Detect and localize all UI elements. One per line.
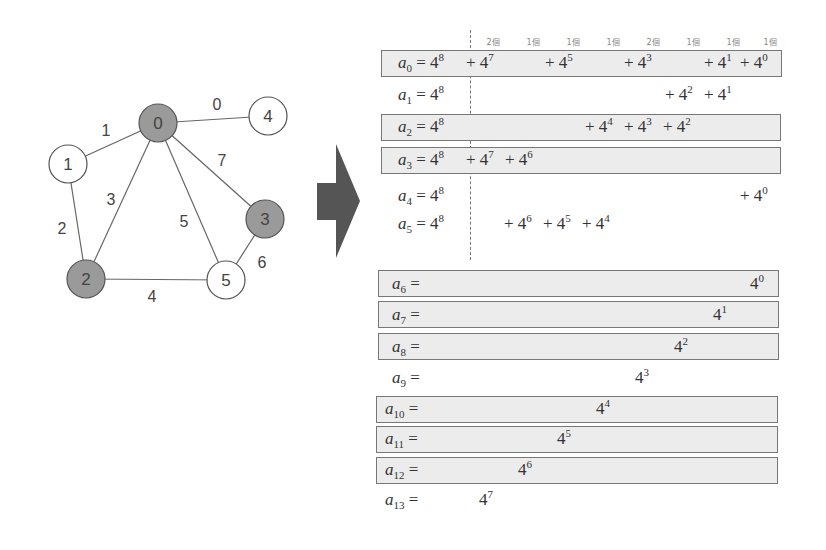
edge-label: 3: [107, 191, 116, 208]
right-arrow-icon: [317, 144, 360, 258]
row-label-a4: a4 = 48: [398, 186, 444, 206]
highlight-box-a11: [376, 426, 778, 453]
node-label: 0: [153, 114, 162, 133]
term: 40: [750, 274, 764, 294]
term: + 47: [466, 53, 494, 73]
term: + 42: [663, 117, 691, 137]
graph-nodes: 012345: [49, 97, 287, 299]
row-label-a12: a12 =: [385, 460, 418, 480]
term: 44: [596, 399, 610, 419]
edge-0-5: [158, 123, 226, 280]
edge-0-3: [158, 123, 265, 219]
highlight-box-a6: [378, 270, 779, 297]
term: + 46: [504, 214, 532, 234]
column-header: 1個: [726, 36, 739, 47]
edge-label: 2: [58, 220, 67, 237]
term: 46: [518, 460, 532, 480]
column-header: 1個: [526, 36, 539, 47]
term: + 41: [704, 53, 732, 73]
edge-0-2: [86, 123, 158, 279]
row-label-a5: a5 = 48: [398, 214, 444, 234]
row-label-a0: a0 = 48: [398, 53, 444, 73]
term: + 42: [665, 85, 693, 105]
edge-label: 1: [102, 122, 111, 139]
term: + 47: [466, 150, 494, 170]
column-header: 1個: [686, 36, 699, 47]
node-label: 3: [260, 210, 269, 229]
column-header: 1個: [606, 36, 619, 47]
edge-label: 5: [180, 213, 189, 230]
term: + 40: [740, 186, 768, 206]
row-label-a1: a1 = 48: [398, 85, 444, 105]
column-header: 1個: [566, 36, 579, 47]
term: 42: [674, 337, 688, 357]
edge-label: 4: [148, 288, 157, 305]
term: 43: [635, 368, 649, 388]
column-header: 2個: [486, 36, 499, 47]
edge-label: 6: [258, 254, 267, 271]
row-label-a6: a6 =: [392, 274, 420, 294]
row-label-a7: a7 =: [392, 305, 420, 325]
term: + 44: [585, 117, 613, 137]
highlight-box-a12: [376, 457, 778, 484]
term: + 43: [624, 117, 652, 137]
node-label: 2: [81, 270, 90, 289]
row-label-a3: a3 = 48: [398, 150, 444, 170]
highlight-box-a10: [376, 396, 778, 423]
row-label-a10: a10 =: [385, 399, 418, 419]
column-header: 1個: [763, 36, 776, 47]
edge-label: 0: [213, 96, 222, 113]
term: + 40: [740, 53, 768, 73]
row-label-a11: a11 =: [385, 429, 418, 449]
row-label-a13: a13 =: [385, 490, 418, 510]
graph-edges: [68, 116, 268, 280]
term: 41: [713, 305, 727, 325]
column-header: 2個: [646, 36, 659, 47]
term: 47: [479, 490, 493, 510]
edge-2-5: [86, 279, 226, 280]
term: + 41: [704, 85, 732, 105]
term: + 43: [624, 53, 652, 73]
term: + 46: [505, 150, 533, 170]
node-label: 4: [263, 107, 272, 126]
highlight-box-a8: [378, 333, 779, 360]
edge-label: 7: [218, 152, 227, 169]
node-label: 5: [221, 271, 230, 290]
term: 45: [557, 429, 571, 449]
term: + 45: [543, 214, 571, 234]
row-label-a2: a2 = 48: [398, 117, 444, 137]
node-label: 1: [63, 155, 72, 174]
term: + 44: [582, 214, 610, 234]
row-label-a9: a9 =: [392, 368, 420, 388]
term: + 45: [545, 53, 573, 73]
row-label-a8: a8 =: [392, 337, 420, 357]
